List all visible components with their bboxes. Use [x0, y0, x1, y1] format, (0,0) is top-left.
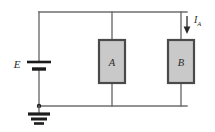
current-arrow-group: IA	[184, 14, 202, 34]
current-label-subscript: A	[196, 20, 201, 27]
current-label: IA	[193, 14, 201, 27]
block-b-label: B	[178, 57, 185, 68]
source-label-e: E	[13, 58, 21, 70]
block-a-group: A	[99, 40, 125, 83]
ground-symbol	[28, 104, 50, 124]
battery-symbol	[27, 62, 51, 69]
current-arrow-head-icon	[184, 27, 191, 35]
circuit-canvas: E A B IA	[0, 0, 215, 132]
block-a-label: A	[108, 57, 116, 68]
circuit-diagram-figure: E A B IA	[0, 0, 215, 132]
block-b-group: B	[168, 40, 194, 83]
